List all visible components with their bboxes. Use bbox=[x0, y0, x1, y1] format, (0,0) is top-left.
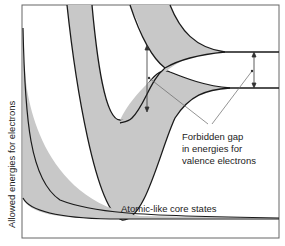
forbidden-gap-label-1: Forbidden gap bbox=[182, 131, 243, 142]
core-states-label: Atomic-like core states bbox=[121, 203, 217, 214]
leader-dot-right bbox=[251, 70, 253, 72]
leader-line-right bbox=[212, 71, 252, 124]
upper-band-region-2 bbox=[132, 5, 225, 68]
forbidden-gap-label-2: in energies for bbox=[182, 143, 242, 154]
y-axis-label: Allowed energies for electrons bbox=[6, 100, 17, 228]
band-diagram: Forbidden gap in energies for valence el… bbox=[0, 0, 285, 246]
forbidden-gap-label-3: valence electrons bbox=[182, 155, 256, 166]
leader-dot-left bbox=[148, 77, 150, 79]
